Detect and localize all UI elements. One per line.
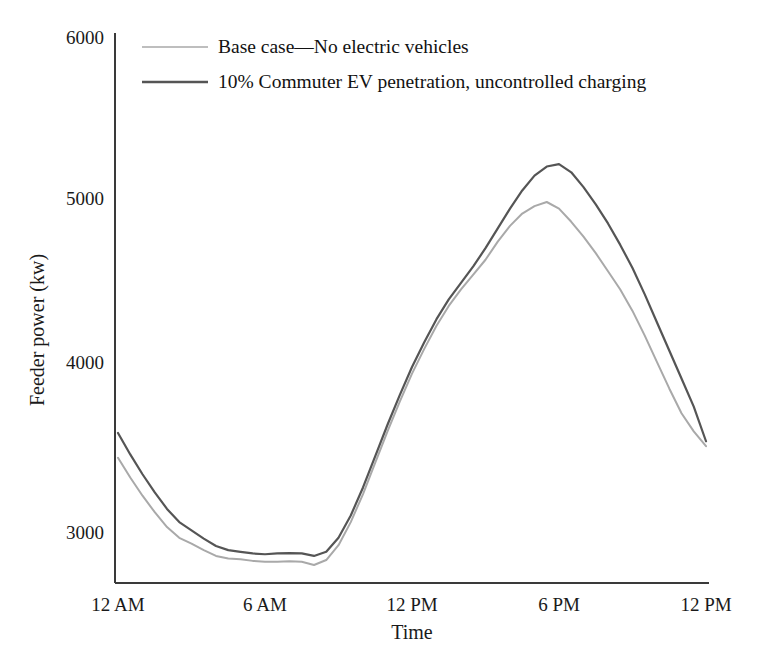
legend-label-ev-penetration: 10% Commuter EV penetration, uncontrolle…: [218, 71, 646, 92]
x-tick-label-0: 12 AM: [91, 594, 144, 615]
legend: Base case—No electric vehicles 10% Commu…: [142, 36, 646, 92]
series-line-ev-penetration: [118, 164, 706, 556]
x-tick-label-3: 6 PM: [538, 594, 580, 615]
y-tick-label-3000: 3000: [66, 522, 104, 543]
y-tick-label-5000: 5000: [66, 188, 104, 209]
series-line-base-case: [118, 202, 706, 565]
x-tick-label-1: 6 AM: [243, 594, 287, 615]
x-axis-title: Time: [391, 621, 433, 643]
chart-figure: 6000 5000 4000 3000 12 AM 6 AM 12 PM 6 P…: [0, 0, 768, 661]
y-axis-title: Feeder power (kw): [26, 254, 49, 406]
legend-label-base-case: Base case—No electric vehicles: [218, 36, 469, 57]
line-chart: 6000 5000 4000 3000 12 AM 6 AM 12 PM 6 P…: [0, 0, 768, 661]
y-tick-label-6000: 6000: [66, 27, 104, 48]
x-tick-label-4: 12 PM: [680, 594, 731, 615]
series-group: [118, 164, 706, 565]
x-tick-label-2: 12 PM: [386, 594, 437, 615]
y-tick-label-4000: 4000: [66, 352, 104, 373]
